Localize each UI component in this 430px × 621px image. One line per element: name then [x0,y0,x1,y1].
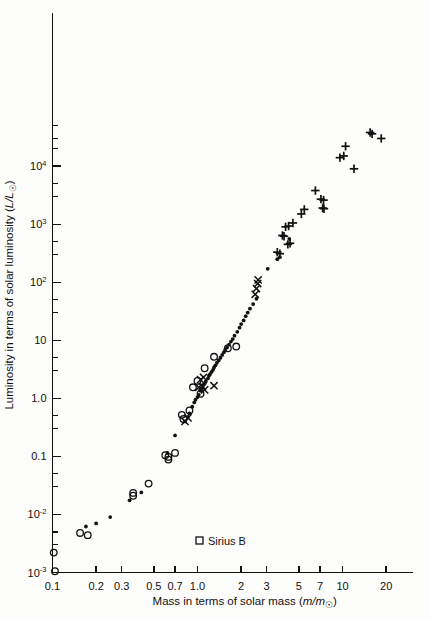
point-circle [233,343,240,350]
point-plus [336,153,344,161]
x-tick-label: 0.2 [89,580,104,592]
point-dot [251,302,255,306]
y-tick-label: 103 [30,217,46,231]
axes [53,13,414,573]
point-dot [108,515,112,519]
point-dot [128,498,132,502]
point-plus [350,165,358,173]
point-plus [340,152,348,160]
point-circle [50,549,57,556]
point-cross [210,382,217,389]
x-axis-title: Mass in terms of solar mass (m/m☉) [153,595,338,610]
mass-luminosity-chart: 0.10.20.30.50.71.023571020 104103102101.… [0,0,430,621]
y-tick-label: 104 [30,159,46,173]
point-circle [172,450,179,457]
data-points [50,128,385,574]
legend-label: Sirius B [208,535,246,547]
point-circle [77,530,84,537]
point-plus [366,128,374,136]
x-tick-label: 20 [380,580,392,592]
point-dot [248,307,252,311]
point-cross [200,374,207,381]
point-dot [139,490,143,494]
x-tick-labels: 0.10.20.30.50.71.023571020 [45,580,392,592]
point-plus [341,142,349,150]
legend-square-icon [196,537,203,544]
y-tick-label: 0.1 [31,450,46,462]
x-tick-label: 1.0 [190,580,205,592]
x-tick-label: 0.1 [45,580,60,592]
point-circle [84,532,91,539]
point-circle [201,365,208,372]
y-tick-labels: 104103102101.00.110-210-3 [28,159,47,579]
point-plus [377,134,385,142]
point-dot [231,337,235,341]
y-tick-label: 10-3 [28,565,47,579]
point-dot [84,525,88,529]
point-dot [266,267,270,271]
y-axis-title: Luminosity in terms of solar luminosity … [3,180,18,409]
point-dot [242,319,246,323]
point-plus [320,204,328,212]
y-tick-label: 102 [30,275,46,289]
y-tick-label: 10-2 [28,507,47,521]
x-tick-label: 0.5 [146,580,161,592]
x-tick-label: 2 [238,580,244,592]
point-cross [253,285,260,292]
y-tick-label: 1.0 [31,392,46,404]
x-tick-label: 0.7 [167,580,182,592]
point-circle [211,353,218,360]
point-dot [238,326,242,330]
tick-marks [53,126,387,573]
point-dot [233,334,237,338]
y-tick-label: 10 [34,334,46,346]
point-plus [368,130,376,138]
point-dot [94,522,98,526]
point-plus [280,232,288,240]
x-tick-label: 5 [296,580,302,592]
point-circle [190,384,197,391]
x-tick-label: 3 [264,580,270,592]
point-dot [173,434,177,438]
point-dot [235,330,239,334]
x-tick-label: 10 [336,580,348,592]
point-circle [145,480,152,487]
point-dot [244,314,248,318]
point-dot [246,311,250,315]
x-tick-label: 7 [317,580,323,592]
point-dot [239,322,243,326]
point-plus [311,186,319,194]
chart-legend: Sirius B [196,535,246,547]
x-tick-label: 0.3 [114,580,129,592]
chart-canvas: 0.10.20.30.50.71.023571020 104103102101.… [0,0,430,621]
